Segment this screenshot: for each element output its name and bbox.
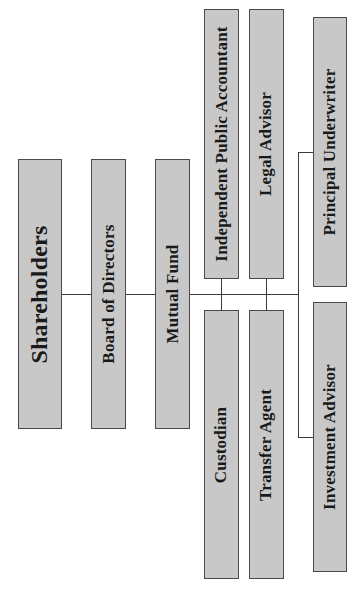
node-principal-underwriter: Principal Underwriter xyxy=(313,17,347,287)
node-independent-public-accountant: Independent Public Accountant xyxy=(204,9,239,279)
node-label: Shareholders xyxy=(27,225,54,363)
node-board-of-directors: Board of Directors xyxy=(91,159,126,429)
connector-investment-stub xyxy=(298,437,313,438)
node-label: Legal Advisor xyxy=(257,92,277,196)
node-legal-advisor: Legal Advisor xyxy=(249,9,284,279)
node-transfer-agent: Transfer Agent xyxy=(249,310,284,579)
node-label: Transfer Agent xyxy=(257,388,277,500)
node-label: Custodian xyxy=(212,406,232,482)
node-label: Independent Public Accountant xyxy=(212,26,232,261)
connector-underwriter-investment-spine xyxy=(298,152,299,438)
node-label: Board of Directors xyxy=(99,224,119,363)
node-custodian: Custodian xyxy=(204,310,239,579)
node-label: Investment Advisor xyxy=(320,364,340,510)
connector-accountant-custodian xyxy=(221,279,222,310)
org-chart-diagram: Shareholders Board of Directors Mutual F… xyxy=(0,0,360,600)
node-investment-advisor: Investment Advisor xyxy=(313,302,347,572)
connector-legal-transfer xyxy=(266,279,267,310)
node-shareholders: Shareholders xyxy=(18,159,62,429)
node-label: Principal Underwriter xyxy=(320,68,340,235)
node-label: Mutual Fund xyxy=(163,244,183,343)
connector-underwriter-stub xyxy=(298,152,313,153)
node-mutual-fund: Mutual Fund xyxy=(155,159,190,429)
